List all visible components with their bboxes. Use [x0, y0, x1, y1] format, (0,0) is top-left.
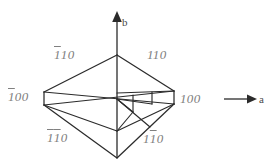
- crystal-interior-lines: [44, 91, 174, 131]
- overbar-digit: 1: [47, 131, 54, 144]
- overbar-digit: 1: [8, 90, 15, 103]
- face-label-11bar0: 110: [143, 132, 163, 145]
- plain-digit: 1: [153, 47, 160, 62]
- face-label-1bar10: 110: [54, 48, 74, 61]
- axis-label-b: b: [122, 17, 128, 28]
- inner-edge-lower-left-fan: [44, 105, 117, 131]
- axis-label-a: a: [259, 94, 264, 105]
- crystal-upper-pyramid: [44, 55, 174, 105]
- plain-digit: 1: [180, 91, 187, 106]
- plain-digit: 0: [160, 47, 167, 62]
- overbar-digit: 1: [54, 131, 61, 144]
- plain-digit: 0: [68, 47, 75, 62]
- plain-digit: 0: [187, 91, 194, 106]
- face-label-110: 110: [147, 48, 166, 61]
- up-arrow-icon: [112, 11, 122, 22]
- face-label-100: 100: [180, 92, 200, 105]
- crystal-figure-svg: [0, 0, 273, 166]
- plain-digit: 0: [22, 89, 29, 104]
- face-label-1bar1bar0: 110: [47, 131, 67, 144]
- plain-digit: 0: [15, 89, 22, 104]
- crystal-diagram: 110 110 100 100 110 110 b a: [0, 0, 273, 166]
- inner-edge-front-base-left: [117, 112, 133, 131]
- inner-edge-front-base: [117, 104, 174, 131]
- a-axis-group: [224, 95, 257, 104]
- b-axis-group: [112, 11, 122, 158]
- overbar-digit: 1: [54, 48, 61, 61]
- plain-digit: 0: [157, 131, 164, 146]
- overbar-digit: 1: [150, 132, 157, 145]
- plain-digit: 1: [143, 131, 150, 146]
- right-arrow-icon: [247, 95, 257, 104]
- plain-digit: 1: [61, 47, 68, 62]
- plain-digit: 0: [61, 130, 68, 145]
- face-label-1bar00: 100: [8, 90, 28, 103]
- plain-digit: 0: [194, 91, 201, 106]
- edge-right-to-center-upper: [44, 91, 174, 105]
